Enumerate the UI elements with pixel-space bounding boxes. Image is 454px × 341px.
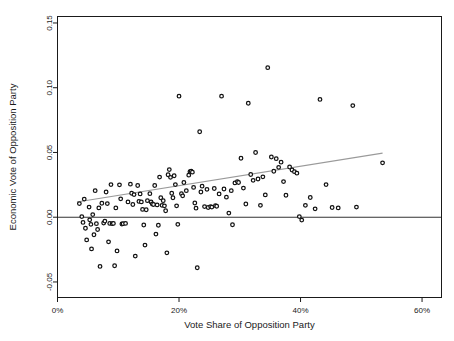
data-point [88, 218, 92, 222]
data-point [185, 189, 189, 193]
data-point [144, 208, 148, 212]
data-point [165, 251, 169, 255]
data-point [91, 213, 95, 217]
data-point [97, 206, 101, 210]
data-point [304, 204, 308, 208]
data-point [298, 215, 302, 219]
y-tick-label: -0.05 [45, 272, 54, 291]
data-point [256, 177, 260, 181]
data-point [107, 240, 111, 244]
y-tick-label: 0.05 [45, 144, 54, 160]
data-point [313, 207, 317, 211]
data-point [284, 193, 288, 197]
data-point [89, 223, 93, 227]
data-point [84, 226, 88, 230]
data-point [92, 233, 96, 237]
y-tick-label: 0.15 [45, 15, 54, 31]
data-point [148, 192, 152, 196]
data-point [175, 204, 179, 208]
data-point [157, 223, 161, 227]
data-point [106, 202, 110, 206]
data-point [193, 201, 197, 205]
data-point [132, 193, 136, 197]
data-point [170, 191, 174, 195]
data-point [261, 175, 265, 179]
data-point [103, 219, 107, 223]
x-axis-title: Vote Share of Opposition Party [184, 319, 315, 330]
data-point [176, 223, 180, 227]
data-point [112, 222, 116, 226]
data-point [126, 200, 130, 204]
data-point [163, 204, 167, 208]
data-point [114, 206, 118, 210]
data-point [131, 203, 135, 207]
data-point [155, 203, 159, 207]
data-point [270, 155, 274, 159]
data-point [295, 171, 299, 175]
data-point [225, 195, 229, 199]
y-tick-label: 0.00 [45, 209, 54, 225]
data-point [124, 222, 128, 226]
data-point [222, 187, 226, 191]
data-point [81, 221, 85, 225]
data-point [115, 249, 119, 253]
data-point [229, 189, 233, 193]
data-point [96, 228, 100, 232]
data-point [220, 94, 224, 98]
figure-background [0, 0, 454, 341]
data-point [98, 265, 102, 269]
data-point [308, 196, 312, 200]
data-point [138, 192, 142, 196]
data-point [249, 173, 253, 177]
data-point [277, 166, 281, 170]
data-point [237, 181, 241, 185]
data-point [246, 101, 250, 105]
data-point [93, 189, 97, 193]
data-point [95, 222, 99, 226]
data-point [194, 206, 198, 210]
data-point [272, 169, 276, 173]
data-point [161, 199, 165, 203]
data-point [181, 194, 185, 198]
data-point [82, 197, 86, 201]
data-point [85, 238, 89, 242]
data-point [172, 174, 176, 178]
data-point [140, 200, 144, 204]
data-point [282, 180, 286, 184]
data-point [191, 170, 195, 174]
data-point [266, 66, 270, 70]
data-point [109, 183, 113, 187]
data-point [119, 197, 123, 201]
data-point [143, 243, 147, 247]
data-point [153, 184, 157, 188]
scatter-plot-figure: 0%20%40%60% -0.050.000.050.100.15 Vote S… [0, 0, 454, 341]
data-point [133, 254, 137, 258]
data-point [355, 205, 359, 209]
data-point [100, 201, 104, 205]
y-tick-label: 0.10 [45, 79, 54, 95]
data-point [104, 190, 108, 194]
data-point [205, 188, 209, 192]
data-point [381, 161, 385, 165]
data-point [136, 184, 140, 188]
data-point [87, 205, 91, 209]
data-point [318, 98, 322, 102]
data-point [182, 181, 186, 185]
data-point [158, 175, 162, 179]
data-point [200, 184, 204, 188]
data-point [300, 218, 304, 222]
data-point [199, 190, 203, 194]
data-point [264, 193, 268, 197]
data-point [274, 157, 278, 161]
data-point [171, 196, 175, 200]
data-point [336, 206, 340, 210]
data-point [118, 183, 122, 187]
data-point [244, 202, 248, 206]
x-tick-label: 60% [414, 306, 430, 315]
data-point [168, 168, 172, 172]
data-point [80, 215, 84, 219]
data-point [113, 264, 117, 268]
x-tick-label: 0% [52, 306, 64, 315]
data-point [215, 204, 219, 208]
data-point [212, 187, 216, 191]
